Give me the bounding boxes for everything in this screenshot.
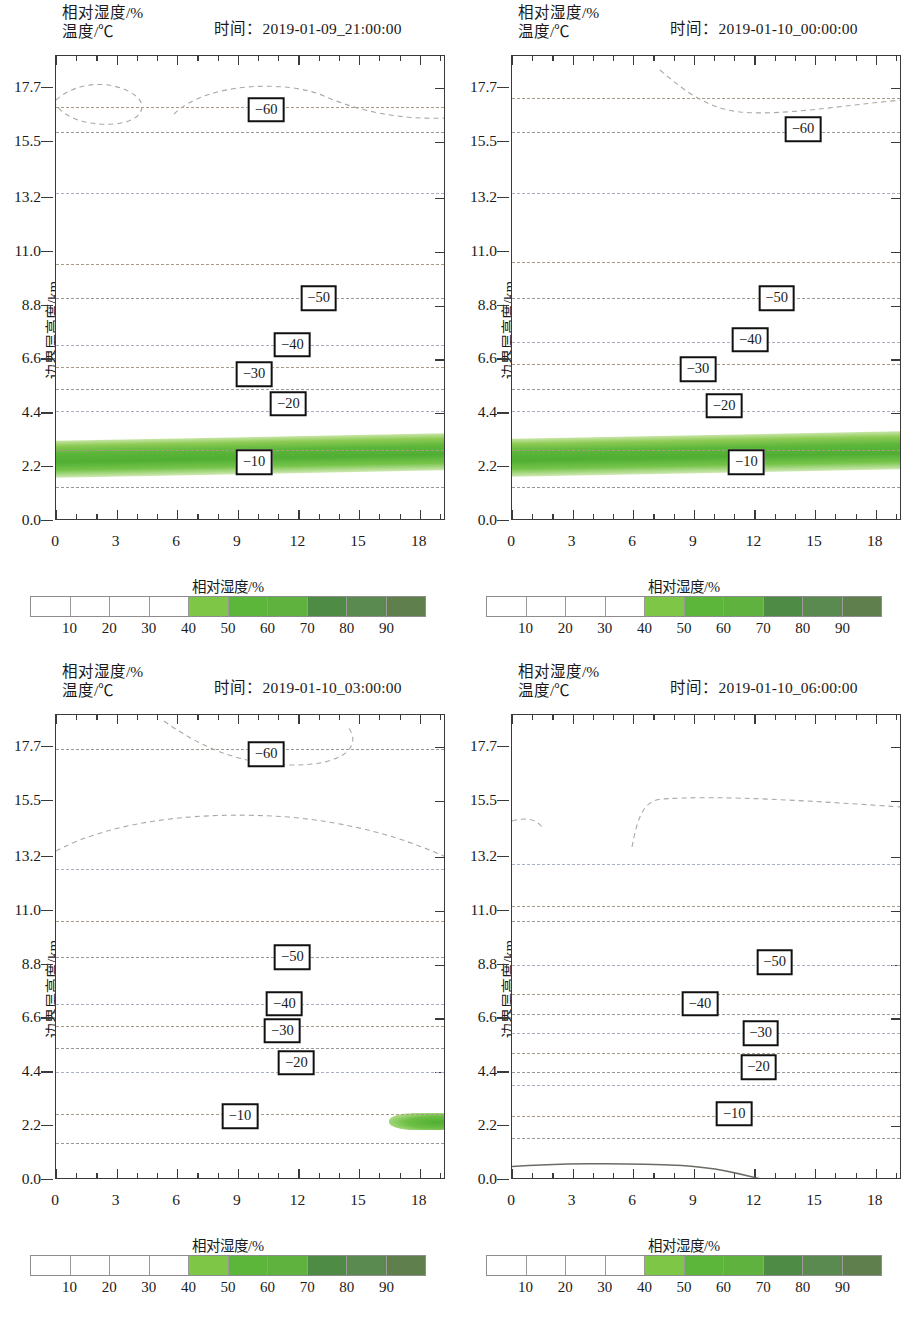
header-humidity-label: 相对湿度/% <box>62 663 143 682</box>
colorbar-tick-label: 50 <box>677 1279 692 1296</box>
contour-value-label: −20 <box>740 1055 777 1081</box>
colorbar-tick-label: 50 <box>221 620 236 637</box>
colorbar-tick-label: 40 <box>181 620 196 637</box>
y-tick-label: 4.4 <box>22 1062 41 1080</box>
x-tick-label: 6 <box>172 1191 180 1209</box>
y-tick-label: 0.0 <box>478 1170 497 1188</box>
x-tick-label: 15 <box>806 532 822 550</box>
colorbar-tick-label: 60 <box>260 620 275 637</box>
x-tick-label: 3 <box>568 532 576 550</box>
colorbar-tick-label: 20 <box>102 1279 117 1296</box>
panel-header-labels: 相对湿度/%温度/℃ <box>62 663 143 701</box>
colorbar-segment <box>606 597 646 616</box>
colorbar-tick-label: 10 <box>62 1279 77 1296</box>
colorbar: 相对湿度/%102030405060708090 <box>486 1234 882 1304</box>
plot-frame: −50−40−30−20−10 <box>511 714 901 1179</box>
x-tick-label: 9 <box>233 532 241 550</box>
y-tick-label: 2.2 <box>22 457 41 475</box>
x-tick-label: 12 <box>746 1191 762 1209</box>
x-tick-label: 18 <box>867 532 883 550</box>
header-temperature-label: 温度/℃ <box>518 682 599 701</box>
y-tick-label: 15.5 <box>14 791 41 809</box>
colorbar-segment <box>764 597 804 616</box>
colorbar-segment <box>724 597 764 616</box>
contour-value-label: −10 <box>728 450 765 476</box>
y-tick-label: 4.4 <box>22 403 41 421</box>
header-humidity-label: 相对湿度/% <box>62 4 143 23</box>
colorbar-segment <box>268 1256 308 1275</box>
header-temperature-label: 温度/℃ <box>62 23 143 42</box>
x-tick-label: 6 <box>628 532 636 550</box>
x-tick-label: 3 <box>112 532 120 550</box>
colorbar-tick-label: 80 <box>795 1279 810 1296</box>
colorbar-ticks: 102030405060708090 <box>486 620 882 642</box>
colorbar-tick-label: 90 <box>835 620 850 637</box>
colorbar-segment <box>347 1256 387 1275</box>
contour-value-label: −50 <box>758 286 795 312</box>
y-tick-label: 6.6 <box>478 349 497 367</box>
x-tick-label: 15 <box>350 532 366 550</box>
colorbar-segment <box>308 597 348 616</box>
colorbar-segment <box>527 597 567 616</box>
y-tick-label: 6.6 <box>478 1008 497 1026</box>
colorbar-tick-label: 10 <box>518 1279 533 1296</box>
x-tick-label: 6 <box>628 1191 636 1209</box>
contour-value-label: −10 <box>716 1101 753 1127</box>
colorbar-segment <box>150 597 190 616</box>
colorbar-segment <box>229 1256 269 1275</box>
contour-value-label: −60 <box>785 117 822 143</box>
surface-curve <box>512 715 901 1179</box>
y-tick-label: 2.2 <box>22 1116 41 1134</box>
contour-value-label: −30 <box>264 1018 301 1044</box>
panel-timestamp: 时间：2019-01-10_06:00:00 <box>670 675 858 697</box>
y-tick-label: 13.2 <box>14 188 41 206</box>
x-tick-label: 0 <box>507 532 515 550</box>
x-tick-label: 12 <box>746 532 762 550</box>
contour-value-label: −50 <box>756 949 793 975</box>
colorbar-segment <box>803 597 843 616</box>
colorbar-tick-label: 90 <box>379 620 394 637</box>
y-tick-label: 13.2 <box>14 847 41 865</box>
y-tick-label: 6.6 <box>22 1008 41 1026</box>
plot-panel: 相对湿度/%温度/℃时间：2019-01-10_06:00:00边界层高度/km… <box>456 659 912 1319</box>
plot-panel: 相对湿度/%温度/℃时间：2019-01-09_21:00:00边界层高度/km… <box>0 0 456 660</box>
contour-value-label: −50 <box>274 945 311 971</box>
colorbar-segment <box>110 1256 150 1275</box>
colorbar-tick-label: 30 <box>141 620 156 637</box>
y-tick-label: 2.2 <box>478 1116 497 1134</box>
colorbar-tick-label: 80 <box>339 620 354 637</box>
contour-value-label: −30 <box>742 1020 779 1046</box>
x-tick-label: 9 <box>233 1191 241 1209</box>
y-tick-label: 0.0 <box>22 511 41 529</box>
colorbar-tick-label: 80 <box>339 1279 354 1296</box>
colorbar-title: 相对湿度/% <box>486 1234 882 1255</box>
header-humidity-label: 相对湿度/% <box>518 663 599 682</box>
x-tick-label: 6 <box>172 532 180 550</box>
colorbar-segment <box>566 1256 606 1275</box>
colorbar-segment <box>71 1256 111 1275</box>
contour-value-label: −10 <box>222 1104 259 1130</box>
y-tick-label: 8.8 <box>22 296 41 314</box>
y-tick-label: 0.0 <box>22 1170 41 1188</box>
colorbar-tick-label: 40 <box>181 1279 196 1296</box>
contour-value-label: −60 <box>248 741 285 767</box>
colorbar-tick-label: 20 <box>558 620 573 637</box>
y-tick-label: 11.0 <box>14 242 41 260</box>
colorbar-segment <box>347 597 387 616</box>
colorbar-tick-label: 60 <box>716 1279 731 1296</box>
colorbar-tick-label: 70 <box>756 620 771 637</box>
colorbar-segment <box>268 597 308 616</box>
colorbar-gradient <box>486 596 882 617</box>
y-tick-label: 17.7 <box>14 737 41 755</box>
colorbar-segment <box>110 597 150 616</box>
colorbar-segment <box>566 597 606 616</box>
colorbar-segment <box>724 1256 764 1275</box>
x-axis-ticks: 0369121518 <box>55 1185 445 1209</box>
x-tick-label: 18 <box>411 1191 427 1209</box>
y-axis-ticks: 0.02.24.46.68.811.013.215.517.7 <box>0 55 53 520</box>
y-axis-ticks: 0.02.24.46.68.811.013.215.517.7 <box>0 714 53 1179</box>
plot-frame: −60−50−40−30−20−10 <box>55 55 445 520</box>
y-tick-label: 13.2 <box>470 847 497 865</box>
y-tick-label: 11.0 <box>14 901 41 919</box>
x-axis-ticks: 0369121518 <box>55 526 445 550</box>
